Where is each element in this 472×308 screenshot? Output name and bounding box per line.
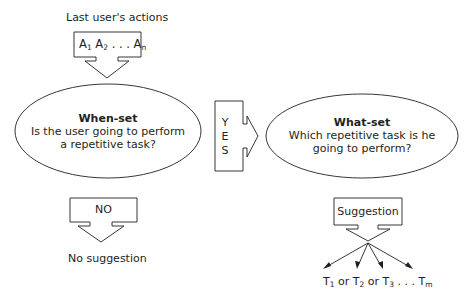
- subscript: 2: [103, 43, 108, 52]
- what-set-text: What-set Which repetitive task is he goi…: [266, 116, 458, 155]
- when-set-line1: Is the user going to perform: [15, 125, 201, 138]
- subscript: n: [141, 43, 146, 52]
- or-text: or: [364, 275, 382, 288]
- what-set-line2: going to perform?: [266, 142, 458, 155]
- what-set-line1: Which repetitive task is he: [266, 129, 458, 142]
- yes-letter: Y: [216, 116, 234, 130]
- action-a1: A: [79, 37, 87, 51]
- ellipsis: . . .: [394, 275, 418, 288]
- no-label: NO: [70, 203, 137, 216]
- what-set-title: What-set: [266, 116, 458, 129]
- input-label: Last user's actions: [66, 11, 168, 24]
- ellipsis: . . .: [112, 37, 130, 51]
- when-set-title: When-set: [15, 112, 201, 125]
- suggestion-label: Suggestion: [334, 205, 402, 218]
- subscript: 1: [87, 43, 92, 52]
- task-t2: T: [353, 275, 360, 288]
- yes-letter: S: [216, 144, 234, 158]
- subscript: m: [425, 280, 432, 289]
- when-set-text: When-set Is the user going to perform a …: [15, 112, 201, 151]
- action-a2: A: [95, 37, 103, 51]
- action-sequence: A1 A2 . . . An: [79, 38, 146, 51]
- yes-letter: E: [216, 130, 234, 144]
- no-suggestion-text: No suggestion: [68, 252, 147, 265]
- task-options: T1 or T2 or T3 . . . Tm: [323, 275, 433, 288]
- task-t1: T: [323, 275, 330, 288]
- when-set-line2: a repetitive task?: [15, 138, 201, 151]
- fan-arrowheads: [323, 261, 413, 269]
- diagram-canvas: Last user's actions A1 A2 . . . An When-…: [0, 0, 472, 308]
- yes-label: Y E S: [216, 116, 234, 158]
- or-text: or: [335, 275, 353, 288]
